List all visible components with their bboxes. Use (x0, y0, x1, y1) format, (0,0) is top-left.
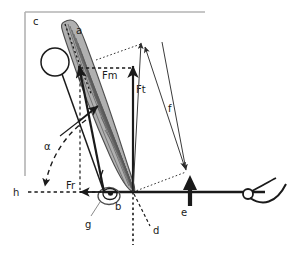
horizontal-reference-label: h (13, 187, 19, 198)
vertical-reference-label: d (153, 225, 159, 236)
distal-measure-vector (162, 42, 186, 170)
pennation-angle-label: α (44, 141, 51, 152)
figure-canvas: c f (0, 0, 292, 260)
tendon-force-label: Ft (136, 84, 146, 95)
muscle-force-label: Fm (102, 70, 118, 81)
external-load-label: e (181, 207, 187, 218)
resultant-force-vector (133, 43, 141, 192)
muscle-label: a (76, 25, 82, 36)
hand-grip (243, 178, 286, 202)
joint-detail-label: g (85, 219, 91, 230)
reaction-force-label: Fr (66, 180, 76, 191)
figure-root: c f (0, 0, 292, 260)
component-force-baseline (60, 122, 78, 136)
panel-letter: c (33, 16, 39, 27)
external-load-vector (183, 175, 197, 206)
moment-arm-measure (145, 47, 185, 168)
oblique-reference-line (134, 194, 150, 226)
joint-label: b (115, 201, 121, 212)
moment-arm-label: f (168, 103, 172, 114)
